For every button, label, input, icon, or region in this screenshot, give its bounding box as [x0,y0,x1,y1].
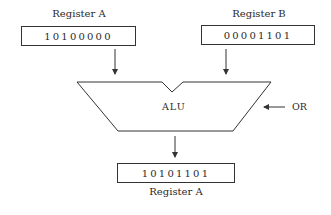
result-register-box: 10101101 [117,163,235,183]
result-register-label: Register A [148,186,204,197]
operation-label: OR [292,101,307,112]
alu-label: ALU [162,101,186,112]
